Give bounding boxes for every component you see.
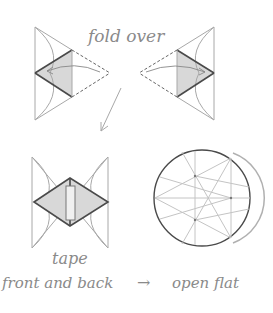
folding-diagram: fold over tape front and back → open fla… bbox=[0, 0, 273, 313]
arrow-label: → bbox=[137, 273, 150, 292]
tape-label: tape bbox=[52, 249, 88, 268]
front-and-back-label: front and back bbox=[1, 274, 113, 292]
open-flat-label: open flat bbox=[172, 274, 240, 292]
fold-over-label: fold over bbox=[86, 26, 165, 46]
tape-step-figure bbox=[32, 157, 108, 248]
next-step-arrow-icon bbox=[101, 88, 121, 131]
tape-strip bbox=[66, 186, 75, 220]
open-flat-circle-figure bbox=[154, 150, 264, 246]
